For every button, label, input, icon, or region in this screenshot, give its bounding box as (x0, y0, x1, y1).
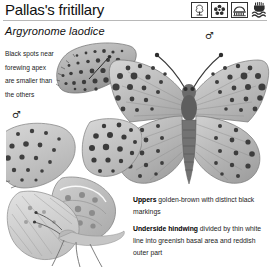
annotation-line: forewing apex (5, 61, 83, 75)
underside-male-specimen (6, 118, 142, 268)
header-divider (3, 20, 267, 21)
bridge-habitat-icon[interactable] (231, 2, 248, 18)
flower-habitat-icon[interactable] (211, 2, 228, 18)
male-symbol-lower: ♂ (12, 110, 21, 120)
annotation-line: are smaller than (5, 74, 83, 88)
habitat-icon-row (191, 2, 268, 18)
male-symbol-upper: ♂ (205, 31, 214, 41)
description-underside-hindwing: Underside hindwing divided by thin white… (133, 223, 267, 259)
tree-habitat-icon[interactable] (191, 2, 208, 18)
page-title: Pallas's fritillary (5, 1, 104, 18)
annotation-line: Black spots near (5, 47, 83, 61)
description-lead: Uppers (133, 196, 156, 203)
scientific-name: Argyronome laodice (5, 25, 105, 37)
hand-water-habitat-icon[interactable] (251, 2, 268, 18)
description-uppers: Uppers golden-brown with distinct black … (133, 194, 267, 218)
annotation-line: the others (5, 88, 83, 102)
field-guide-page: Pallas's fritillary (0, 0, 270, 269)
annotation-forewing-apex: Black spots near forewing apex are small… (5, 47, 83, 101)
description-lead: Underside hindwing (133, 225, 198, 232)
